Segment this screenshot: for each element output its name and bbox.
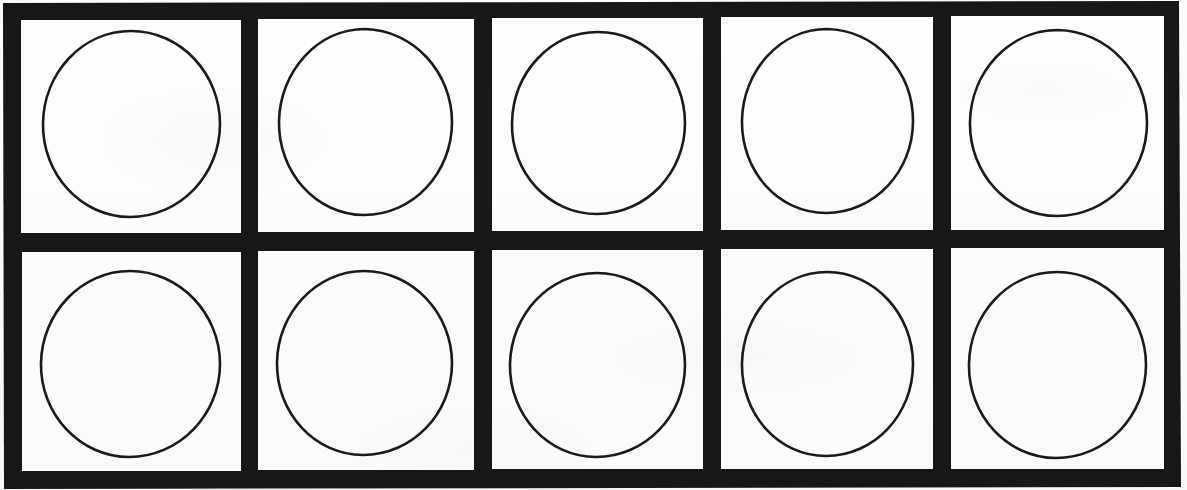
cell-face-r1c3[interactable] [492,18,703,231]
cell-face-r2c4[interactable] [721,249,933,469]
cell-face-r1c4[interactable] [721,17,933,230]
cell-face-r2c2[interactable] [258,251,474,470]
cell-face-r2c1[interactable] [22,252,241,471]
cell-face-r1c2[interactable] [258,19,474,232]
cell-face-r1c5[interactable] [951,16,1164,230]
cell-face-r2c5[interactable] [951,248,1164,469]
grid-of-circles-figure [0,0,1187,490]
cell-face-r2c3[interactable] [492,250,703,469]
cell-face-r1c1[interactable] [21,20,241,233]
scanned-page: Grid of Circles Hand-drawn rectangular f… [0,0,1187,490]
